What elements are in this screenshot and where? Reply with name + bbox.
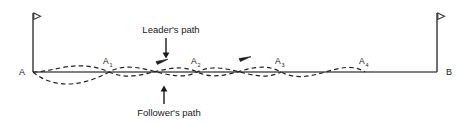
path-diagram: A B A 1 A 2 A 3 A 4 Leader's path Follow… bbox=[0, 0, 467, 123]
follower-path-annotation-label: Follower's path bbox=[137, 107, 201, 118]
node-label-a1-base: A bbox=[103, 56, 109, 66]
endpoint-label-a: A bbox=[19, 67, 25, 77]
leader-path-annotation-label: Leader's path bbox=[142, 24, 199, 35]
diagram-canvas: A B A 1 A 2 A 3 A 4 Leader's path Follow… bbox=[0, 0, 467, 123]
node-label-a2-base: A bbox=[191, 56, 197, 66]
endpoint-label-b: B bbox=[446, 67, 452, 77]
node-label-a4-base: A bbox=[359, 56, 365, 66]
node-label-a2: A 2 bbox=[191, 56, 201, 68]
follower-path-curve bbox=[33, 67, 281, 84]
node-label-a1-subscript: 1 bbox=[110, 62, 113, 68]
leader-direction-arrow-1-icon bbox=[156, 59, 168, 64]
flagpole-right bbox=[437, 13, 445, 72]
follower-annotation-arrow-icon bbox=[161, 86, 168, 105]
flagpole-left bbox=[33, 13, 41, 72]
leader-direction-arrow-2-icon bbox=[239, 57, 251, 62]
node-label-a2-subscript: 2 bbox=[198, 62, 201, 68]
node-label-a1: A 1 bbox=[103, 56, 113, 68]
node-label-a4: A 4 bbox=[359, 56, 369, 68]
flagpole-left-flag-icon bbox=[34, 13, 41, 19]
node-label-a3-subscript: 3 bbox=[282, 62, 285, 68]
node-label-a3-base: A bbox=[275, 56, 281, 66]
leader-annotation-arrow-icon bbox=[163, 38, 170, 59]
node-label-a3: A 3 bbox=[275, 56, 285, 68]
flagpole-right-flag-icon bbox=[438, 13, 445, 19]
node-label-a4-subscript: 4 bbox=[366, 62, 369, 68]
